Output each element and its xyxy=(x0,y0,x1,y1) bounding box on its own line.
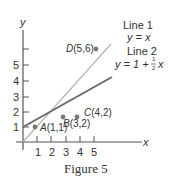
point-a xyxy=(33,125,38,130)
x-tick-label: 5 xyxy=(91,146,97,158)
figure-5-chart: 1 2 3 4 5 1 2 3 4 5 y x A(1,1) B(3,2) C(… xyxy=(0,0,173,184)
point-c-label: C(4,2) xyxy=(84,107,112,118)
x-axis-label: x xyxy=(142,136,149,148)
y-tick-label: 4 xyxy=(13,75,19,87)
y-tick-label: 2 xyxy=(13,106,19,118)
point-d xyxy=(94,47,99,52)
point-d-label: D(5,6) xyxy=(66,43,94,54)
line-1-equation: y = x xyxy=(126,31,151,43)
svg-text:x: x xyxy=(157,58,164,70)
x-tick-label: 3 xyxy=(63,146,69,158)
line-1-name: Line 1 xyxy=(123,19,153,31)
x-tick-label: 1 xyxy=(35,146,41,158)
fraction-denominator: 2 xyxy=(152,65,156,71)
line-2-equation: y = 1 + 1 2 x xyxy=(114,56,164,71)
x-tick-label: 4 xyxy=(77,146,83,158)
y-tick-label: 5 xyxy=(13,59,19,71)
y-ticks xyxy=(23,49,29,127)
x-tick-label: 2 xyxy=(49,146,55,158)
svg-text:y = 1 +: y = 1 + xyxy=(114,58,149,70)
y-axis-label: y xyxy=(19,16,27,28)
x-ticks xyxy=(37,136,94,142)
figure-caption: Figure 5 xyxy=(64,161,108,176)
y-tick-label: 3 xyxy=(13,91,19,103)
point-b-label: B(3,2) xyxy=(63,118,90,129)
y-tick-label: 1 xyxy=(13,121,19,133)
